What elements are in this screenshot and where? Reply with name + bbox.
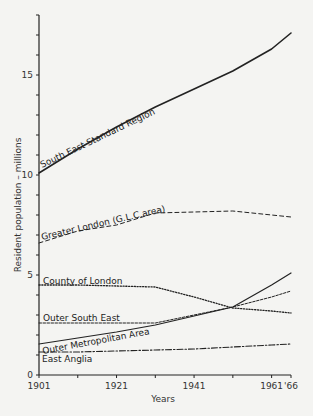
series-lines xyxy=(39,33,291,352)
population-line-chart: 0510151901192119411961'66 South East Sta… xyxy=(0,0,313,416)
x-tick-label: 1921 xyxy=(105,381,128,391)
series-labels: South East Standard RegionGreater London… xyxy=(39,107,167,364)
series-label-5: East Anglia xyxy=(42,354,92,364)
y-tick-label: 0 xyxy=(27,370,33,380)
x-tick-label: 1901 xyxy=(28,381,51,391)
x-tick-label: 1961 xyxy=(260,381,283,391)
series-label-3: Outer South East xyxy=(43,313,120,323)
series-label-1: Greater London (G.L.C.area) xyxy=(40,204,166,242)
x-axis-title: Years xyxy=(150,394,175,404)
axes: 0510151901192119411961'66 xyxy=(22,15,299,391)
x-tick-label: 1941 xyxy=(183,381,206,391)
y-tick-label: 5 xyxy=(27,270,33,280)
series-label-0: South East Standard Region xyxy=(39,107,157,170)
y-axis-title: Resident population – millions xyxy=(13,137,23,272)
y-tick-label: 10 xyxy=(22,170,34,180)
y-tick-label: 15 xyxy=(22,70,33,80)
series-label-2: County of London xyxy=(43,276,122,286)
series-line-2 xyxy=(39,285,291,313)
x-tick-label: '66 xyxy=(284,381,298,391)
